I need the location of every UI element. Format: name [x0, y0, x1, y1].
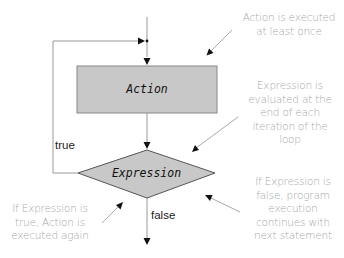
annotation-pointer-bottom-left	[102, 202, 123, 223]
expression-label: Expression	[78, 166, 215, 180]
false-exit-line	[144, 198, 151, 245]
annotation-pointer-bottom-right	[205, 195, 240, 212]
false-branch-label: false	[151, 209, 175, 221]
annotation-bottom-right: If Expression is false, program executio…	[243, 175, 343, 243]
annotation-top-right: Action is executed at least once	[236, 11, 342, 38]
true-branch-label: true	[55, 139, 75, 151]
arrowhead-icon	[138, 38, 145, 45]
annotation-pointer-top-right	[207, 30, 233, 56]
annotation-pointer-middle-right	[192, 117, 238, 152]
arrowhead-icon	[144, 238, 151, 245]
annotation-bottom-left: If Expression is true, Action is execute…	[2, 202, 98, 243]
annotation-middle-right: Expression is evaluated at the end of ea…	[240, 79, 340, 147]
arrowhead-icon	[144, 142, 151, 149]
arrowhead-icon	[144, 58, 151, 65]
junction-dot-icon	[146, 40, 149, 43]
action-to-expression-line	[144, 113, 151, 149]
action-label: Action	[77, 82, 217, 96]
